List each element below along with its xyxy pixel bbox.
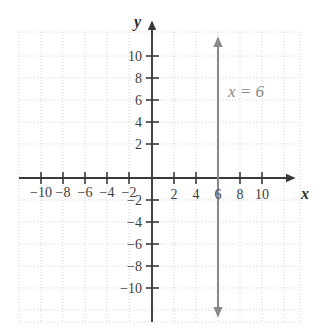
x-tick-label-minus-10: −10	[27, 186, 55, 200]
graph-canvas: −10 −8 −6 −4 −2 2 4 6 8 10 10 8 6 4 2 −2…	[0, 0, 324, 334]
y-tick-label-minus-6: −6	[110, 238, 142, 252]
y-tick-label-minus-10: −10	[106, 282, 142, 296]
x-tick-label-8: 8	[232, 188, 248, 202]
y-tick-label-minus-8: −8	[110, 260, 142, 274]
grid-horizontal-lines	[19, 32, 300, 322]
y-tick-label-10: 10	[110, 50, 142, 64]
y-tick-label-2: 2	[110, 138, 142, 152]
y-tick-label-8: 8	[110, 72, 142, 86]
x-tick-label-10: 10	[251, 188, 273, 202]
y-tick-label-4: 4	[110, 116, 142, 130]
x-tick-label-2: 2	[166, 188, 182, 202]
y-tick-label-6: 6	[110, 94, 142, 108]
y-tick-label-minus-4: −4	[110, 216, 142, 230]
equation-annotation-x-equals-6: x = 6	[228, 83, 264, 100]
y-axis-label: y	[134, 14, 141, 30]
coordinate-plane-svg	[0, 0, 324, 334]
x-tick-label-6: 6	[210, 188, 226, 202]
x-axis-label: x	[301, 186, 309, 202]
y-tick-label-minus-2: −2	[110, 194, 142, 208]
grid-vertical-lines	[19, 32, 300, 322]
x-tick-label-4: 4	[188, 188, 204, 202]
x-tick-label-minus-8: −8	[52, 186, 74, 200]
x-tick-label-minus-6: −6	[74, 186, 96, 200]
